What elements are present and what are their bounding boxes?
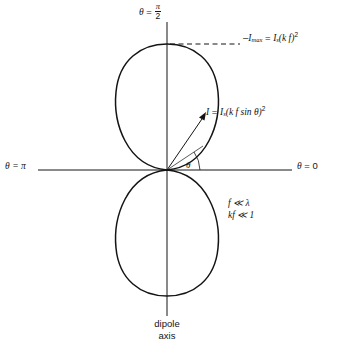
equals-top: = [146, 6, 152, 17]
axis-label-theta-zero: θ = 0 [297, 161, 318, 172]
condition-line-1: f ≪ λ [228, 198, 254, 210]
condition-line-2: kf ≪ 1 [228, 210, 254, 222]
intensity-symbol: I [206, 107, 209, 117]
theta-symbol-right: θ [297, 161, 302, 171]
angle-label-theta: θ [186, 161, 190, 170]
label-dipole-axis: dipole axis [137, 318, 197, 342]
intensity-arrow-head [199, 112, 206, 121]
pi-over-two-fraction: π 2 [155, 2, 162, 20]
intensity-equals: = [212, 106, 218, 117]
figure-canvas [0, 0, 337, 351]
intensity-rhs-power: 2 [262, 105, 266, 112]
theta-value-right: = 0 [304, 160, 317, 171]
dipole-axis-line-2: axis [137, 330, 197, 342]
intensity-rhs-expr: (k f sin θ) [226, 107, 262, 117]
imax-equals: = [265, 32, 271, 43]
fraction-numerator: π [155, 2, 162, 11]
imax-subscript: max [251, 36, 262, 43]
theta-symbol-left: θ [5, 161, 10, 171]
label-intensity-function: I = Is(k f sin θ)2 [206, 106, 265, 118]
axis-label-theta-pi-over-2: θ = π 2 [139, 2, 161, 20]
imax-rhs-power: 2 [294, 31, 298, 38]
dipole-axis-line-1: dipole [137, 318, 197, 330]
theta-value-left: = π [12, 161, 26, 171]
axis-label-theta-pi: θ = π [5, 161, 26, 172]
theta-symbol-arc: θ [186, 160, 190, 170]
label-max-intensity: –Imax = Is(k f)2 [243, 32, 298, 44]
dipole-radiation-figure [0, 0, 337, 351]
label-conditions: f ≪ λ kf ≪ 1 [228, 198, 254, 222]
imax-rhs-expr: (k f) [279, 33, 295, 43]
fraction-denominator: 2 [155, 11, 162, 21]
theta-symbol-top: θ [139, 7, 144, 17]
